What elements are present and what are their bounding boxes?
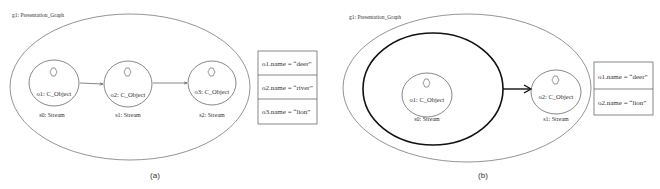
stream-circle (531, 70, 581, 114)
panel-a: g1: Presentation_Graph o1: C_Object s0: … (10, 12, 317, 180)
caption-b: (b) (478, 171, 488, 180)
object-label: o1: C_Object (410, 96, 445, 103)
object-hexagon-icon (208, 68, 215, 76)
table-row: o1.name = “deer” (262, 60, 312, 68)
grouped-stream-ellipse (363, 33, 503, 145)
table-row: o1.name = “deer” (598, 73, 648, 81)
stream-node-a2: o3: C_Object s2: Stream (188, 61, 236, 118)
arrow-connector (80, 83, 103, 84)
stream-node-a1: o2: C_Object s1: Stream (104, 61, 152, 118)
stream-label: s1: Stream (115, 112, 141, 118)
stream-label: s1: Stream (543, 116, 569, 122)
caption-a: (a) (150, 171, 160, 180)
table-row: o2.name = “river” (262, 84, 313, 92)
object-label: o3: C_Object (195, 88, 230, 95)
object-hexagon-icon (423, 79, 430, 87)
panel-b: g1: Presentation_Graph o1: C_Object s0: … (343, 14, 653, 180)
object-hexagon-icon (552, 76, 559, 84)
stream-node-b0: o1: C_Object s0: Stream (402, 73, 452, 122)
object-label: o2: C_Object (539, 93, 574, 100)
stream-label: s0: Stream (414, 116, 440, 122)
stream-circle (402, 73, 452, 117)
object-label: o2: C_Object (111, 91, 146, 98)
object-hexagon-icon (50, 68, 57, 76)
stream-circle (29, 60, 79, 106)
stream-label: s0: Stream (39, 112, 65, 118)
table-row: o3.name = “lion” (262, 108, 310, 116)
stream-circle (188, 61, 236, 105)
stream-node-b1: o2: C_Object s1: Stream (531, 70, 581, 122)
stream-label: s2: Stream (199, 112, 225, 118)
presentation-graph-ellipse-a (10, 14, 250, 160)
attribute-table-a: o1.name = “deer” o2.name = “river” o3.na… (258, 51, 317, 124)
object-label: o1: C_Object (37, 90, 72, 97)
presentation-graph-ellipse-b (343, 14, 591, 162)
stream-node-a0: o1: C_Object s0: Stream (29, 60, 79, 118)
object-hexagon-icon (124, 68, 131, 76)
attribute-table-b: o1.name = “deer” o2.name = “lion” (594, 62, 653, 115)
graph-label-a: g1: Presentation_Graph (12, 12, 64, 18)
table-row: o2.name = “lion” (598, 99, 646, 107)
graph-label-b: g1: Presentation_Graph (349, 14, 401, 20)
